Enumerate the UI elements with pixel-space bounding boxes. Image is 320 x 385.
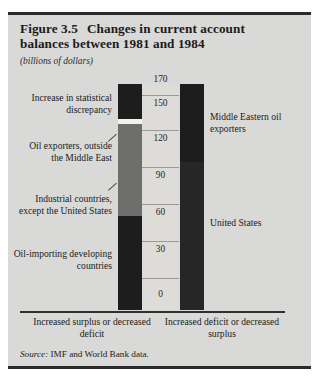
scale-column bbox=[142, 84, 179, 310]
tick-label-90: 90 bbox=[142, 170, 179, 180]
tick-label-120: 120 bbox=[142, 133, 179, 143]
leader-line-industrial bbox=[108, 183, 117, 191]
axis-baseline bbox=[20, 311, 285, 313]
bar-increased-surplus bbox=[118, 84, 142, 310]
gridline-0 bbox=[142, 278, 179, 279]
source-text: IMF and World Bank data. bbox=[51, 349, 149, 359]
source-note: Source: IMF and World Bank data. bbox=[20, 349, 280, 359]
label-statistical-discrepancy: Increase in statistical discrepancy bbox=[14, 92, 112, 115]
segment-statistical-discrepancy bbox=[118, 84, 142, 119]
label-united-states: United States bbox=[210, 217, 294, 229]
bottom-rule bbox=[8, 366, 311, 369]
gridline-30 bbox=[142, 241, 179, 242]
caption-right-axis: Increased deficit or decreased surplus bbox=[162, 316, 282, 340]
label-middle-eastern-oil-exporters: Middle Eastern oil exporters bbox=[210, 111, 294, 134]
label-oil-exporters-outside-me: Oil exporters, outside the Middle East bbox=[24, 140, 112, 163]
source-prefix: Source: bbox=[20, 349, 48, 359]
label-oil-importing-developing: Oil-importing developing countries bbox=[8, 248, 112, 271]
gridline-150 bbox=[142, 95, 179, 96]
segment-united-states bbox=[180, 162, 204, 310]
segment-oil-importing-developing bbox=[118, 216, 142, 310]
gridline-60 bbox=[142, 204, 179, 205]
bar-increased-deficit bbox=[180, 84, 204, 310]
tick-label-150: 150 bbox=[142, 98, 179, 108]
leader-line-oil-exporters bbox=[108, 134, 117, 142]
caption-left-axis: Increased surplus or decreased deficit bbox=[32, 316, 152, 340]
figure-page: Figure 3.5Changes in current account bal… bbox=[0, 0, 320, 385]
label-industrial-countries: Industrial countries, except the United … bbox=[10, 193, 112, 216]
segment-middle-eastern-oil-exporters bbox=[180, 84, 204, 162]
tick-label-170: 170 bbox=[142, 74, 179, 84]
segment-industrial-countries bbox=[118, 124, 142, 216]
gridline-90 bbox=[142, 167, 179, 168]
tick-label-60: 60 bbox=[142, 207, 179, 217]
tick-label-30: 30 bbox=[142, 244, 179, 254]
tick-label-0: 0 bbox=[142, 289, 179, 299]
chart-plot-area: 170 150 120 90 60 30 0 Increase in stati… bbox=[0, 0, 303, 357]
gridline-120 bbox=[142, 130, 179, 131]
